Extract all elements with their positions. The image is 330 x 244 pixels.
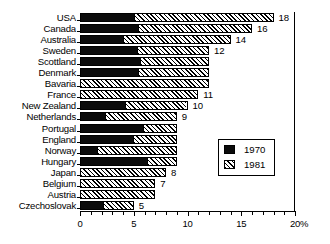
bar-segment-1970 (81, 69, 139, 76)
x-tick-major (241, 211, 242, 216)
legend-entry-1970: 1970 (224, 144, 272, 156)
bar (80, 157, 177, 166)
x-tick-minor (177, 211, 178, 215)
bar-segment-1970 (81, 147, 98, 154)
bar-value-label: 14 (236, 34, 247, 45)
bar-row: Australia14 (0, 34, 330, 45)
category-label: Bavaria (0, 78, 76, 89)
x-tick-label: 15 (226, 219, 256, 229)
bar-segment-1981 (134, 136, 176, 143)
x-tick-minor (209, 211, 210, 215)
x-tick-minor (112, 211, 113, 215)
category-label: Australia (0, 34, 76, 45)
bar-segment-1970 (81, 102, 126, 109)
legend-swatch-hatched-icon (224, 160, 235, 169)
chart-legend: 1970 1981 (218, 139, 275, 176)
bar (80, 13, 274, 22)
x-tick-label: 0 (65, 219, 95, 229)
x-tick-minor (145, 211, 146, 215)
category-label: New Zealand (0, 100, 76, 111)
category-label: Scottland (0, 56, 76, 67)
bar (80, 101, 188, 110)
bar-segment-1981 (81, 191, 154, 198)
category-label: Austria (0, 189, 76, 200)
x-tick-label: 10 (173, 219, 203, 229)
category-label: France (0, 89, 76, 100)
x-tick-minor (198, 211, 199, 215)
bar-segment-1970 (81, 136, 134, 143)
bar-value-label: 9 (182, 111, 187, 122)
x-tick-minor (91, 211, 92, 215)
bar-segment-1970 (81, 202, 104, 209)
x-tick-major (188, 211, 189, 216)
x-tick-minor (284, 211, 285, 215)
bar-row: Czechoslovak5 (0, 200, 330, 211)
bar-value-label: 12 (214, 45, 225, 56)
bar-row: England (0, 134, 330, 145)
x-tick-minor (123, 211, 124, 215)
bar-row: Portugal (0, 123, 330, 134)
x-tick-minor (263, 211, 264, 215)
legend-swatch-solid-icon (224, 145, 235, 154)
bar-row: Sweden12 (0, 45, 330, 56)
bar-row: New Zealand10 (0, 100, 330, 111)
bar-segment-1981 (126, 102, 186, 109)
bar-segment-1981 (139, 69, 208, 76)
bar-segment-1981 (135, 14, 273, 21)
x-tick-label: 5 (119, 219, 149, 229)
bar-row: Scottland (0, 56, 330, 67)
bar-row: Canada16 (0, 23, 330, 34)
category-label: USA (0, 12, 76, 23)
bar (80, 124, 177, 133)
category-label: Canada (0, 23, 76, 34)
category-label: Czechoslovak (0, 200, 76, 211)
bar-row: Hungary (0, 156, 330, 167)
bar-segment-1970 (81, 47, 138, 54)
bar (80, 190, 155, 199)
bar-segment-1981 (148, 158, 176, 165)
category-label: Denmark (0, 67, 76, 78)
bar (80, 79, 209, 88)
category-label: England (0, 134, 76, 145)
x-tick-minor (155, 211, 156, 215)
x-tick-major (134, 211, 135, 216)
category-label: Norway (0, 145, 76, 156)
bar (80, 112, 177, 121)
bar-segment-1981 (81, 180, 154, 187)
bar-row: Japan8 (0, 167, 330, 178)
bar-segment-1970 (81, 14, 135, 21)
bar-row: Belgium7 (0, 178, 330, 189)
bar-segment-1981 (138, 47, 208, 54)
category-label: Netherlands (0, 111, 76, 122)
bar (80, 68, 209, 77)
bar-row: USA18 (0, 12, 330, 23)
bar-segment-1970 (81, 158, 148, 165)
x-tick-major (80, 211, 81, 216)
bar-segment-1970 (81, 25, 139, 32)
category-label: Portugal (0, 123, 76, 134)
bar-row: Austria (0, 189, 330, 200)
x-tick-major (295, 211, 296, 216)
bar (80, 57, 209, 66)
x-tick-minor (220, 211, 221, 215)
bar-value-label: 7 (160, 178, 165, 189)
bar (80, 201, 134, 210)
x-tick-minor (231, 211, 232, 215)
bar-segment-1970 (81, 36, 124, 43)
bar (80, 46, 209, 55)
bar-value-label: 11 (203, 89, 213, 100)
bar-segment-1981 (139, 25, 251, 32)
bar-segment-1981 (144, 125, 175, 132)
bar-segment-1981 (98, 147, 176, 154)
bar (80, 146, 177, 155)
bar-value-label: 18 (279, 12, 290, 23)
category-label: Sweden (0, 45, 76, 56)
bar-segment-1970 (81, 113, 106, 120)
bar-segment-1981 (81, 91, 197, 98)
x-tick-minor (166, 211, 167, 215)
category-label: Belgium (0, 178, 76, 189)
bar-segment-1981 (106, 113, 176, 120)
bar-segment-1981 (141, 58, 208, 65)
bar (80, 168, 166, 177)
bar-segment-1981 (81, 169, 165, 176)
